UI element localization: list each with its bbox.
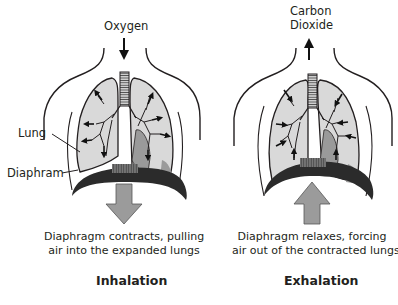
inhalation-figure bbox=[44, 38, 200, 224]
exhalation-figure bbox=[234, 38, 392, 224]
diaphragm-down-arrow-icon bbox=[106, 184, 142, 224]
diaphragm-up-arrow-icon bbox=[294, 182, 330, 224]
exhalation-caption-line-2: air out of the contracted lungs bbox=[232, 244, 392, 258]
diaphragm-callout-label: Diaphram bbox=[7, 166, 64, 180]
diaphragm-callout-line bbox=[62, 170, 78, 173]
exhalation-caption: Diaphragm relaxes, forcing air out of th… bbox=[232, 230, 392, 258]
oxygen-arrow-down-icon bbox=[119, 38, 129, 60]
carbon-dioxide-label-line-2: Dioxide bbox=[290, 18, 330, 32]
lung-callout-line bbox=[52, 134, 80, 152]
respiration-diagram-art bbox=[0, 0, 398, 305]
carbon-dioxide-label: Carbon Dioxide bbox=[290, 4, 330, 32]
inhalation-caption-line-1: Diaphragm contracts, pulling bbox=[44, 230, 204, 244]
inhalation-caption: Diaphragm contracts, pulling air into th… bbox=[44, 230, 204, 258]
oxygen-label: Oxygen bbox=[104, 19, 148, 33]
carbon-dioxide-label-line-1: Carbon bbox=[290, 4, 330, 18]
inhalation-title: Inhalation bbox=[96, 273, 167, 288]
inhalation-caption-line-2: air into the expanded lungs bbox=[44, 244, 204, 258]
exhalation-caption-line-1: Diaphragm relaxes, forcing bbox=[232, 230, 392, 244]
exhalation-title: Exhalation bbox=[284, 273, 358, 288]
left-lung bbox=[77, 78, 118, 172]
carbon-dioxide-arrow-up-icon bbox=[304, 38, 314, 60]
lung-callout-label: Lung bbox=[18, 126, 46, 140]
trachea bbox=[120, 72, 129, 106]
trachea bbox=[308, 74, 317, 108]
